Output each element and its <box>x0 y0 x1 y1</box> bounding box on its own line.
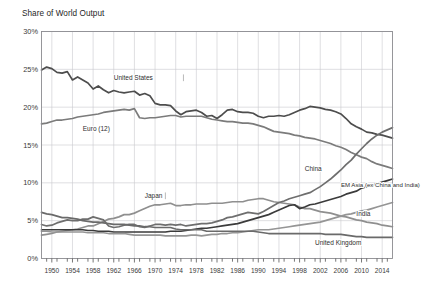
y-axis-tick-label: 10% <box>23 178 38 187</box>
x-axis-tick-label: 1990 <box>251 267 266 274</box>
series-label: United States <box>114 74 154 81</box>
x-axis-tick-label: 2006 <box>334 267 349 274</box>
x-axis-tick-label: 1978 <box>189 267 204 274</box>
x-axis-tick-label: 1970 <box>148 267 163 274</box>
series-label: Euro (12) <box>83 125 110 133</box>
line-chart-plot: 0%5%10%15%20%25%30% 19501954195819621966… <box>0 0 432 291</box>
x-axis-tick-label: 1962 <box>106 267 121 274</box>
y-axis-tick-label: 5% <box>27 216 38 225</box>
series-label: China <box>305 165 322 172</box>
y-axis-labels: 0%5%10%15%20%25%30% <box>23 27 38 263</box>
x-axis-tick-label: 1950 <box>44 267 59 274</box>
x-axis-tick-label: 1954 <box>65 267 80 274</box>
axis-ticks-layer <box>47 259 388 263</box>
gridlines <box>42 32 393 259</box>
series-label: EM Asia (ex China and India) <box>341 181 420 188</box>
series-label: United Kingdom <box>315 239 361 247</box>
y-axis-tick-label: 30% <box>23 27 38 36</box>
x-axis-tick-label: 1958 <box>86 267 101 274</box>
x-axis-tick-label: 2014 <box>375 267 390 274</box>
x-axis-tick-label: 1982 <box>210 267 225 274</box>
series-label: India <box>356 210 370 217</box>
x-axis-tick-label: 1974 <box>168 267 183 274</box>
y-axis-tick-label: 20% <box>23 103 38 112</box>
x-axis-tick-label: 2010 <box>354 267 369 274</box>
x-axis-tick-label: 2002 <box>313 267 328 274</box>
x-axis-labels: 1950195419581962196619701974197819821986… <box>44 267 389 274</box>
x-axis-tick-label: 1998 <box>292 267 307 274</box>
y-axis-tick-label: 0% <box>27 254 38 263</box>
series-label: Japan <box>145 192 163 200</box>
x-axis-tick-label: 1994 <box>272 267 287 274</box>
y-axis-tick-label: 15% <box>23 141 38 150</box>
x-axis-tick-label: 1986 <box>230 267 245 274</box>
y-axis-tick-label: 25% <box>23 65 38 74</box>
x-axis-tick-label: 1966 <box>127 267 142 274</box>
chart-container: Share of World Output 0%5%10%15%20%25%30… <box>0 0 432 291</box>
